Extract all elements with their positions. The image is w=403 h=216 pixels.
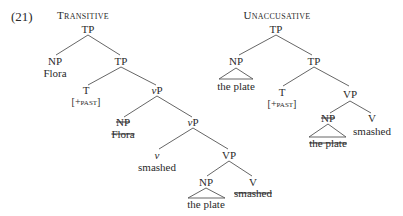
node-tp-bar: TP xyxy=(115,56,128,67)
word-the-plate: the plate xyxy=(187,199,225,210)
node-np-copy: NP xyxy=(116,117,130,128)
word-the-plate-u: the plate xyxy=(217,81,255,92)
example-number: (21) xyxy=(11,9,33,25)
node-vp: VP xyxy=(222,150,236,161)
word-smashed-u: smashed xyxy=(353,126,391,137)
tree-title-transitive: Transitive xyxy=(57,9,109,21)
feature-past: [+past] xyxy=(72,97,101,107)
node-vp-u: VP xyxy=(343,89,357,100)
node-np-object: NP xyxy=(199,177,213,188)
word-flora: Flora xyxy=(43,68,66,79)
word-flora-copy: Flora xyxy=(111,129,134,140)
node-v-u: V xyxy=(368,113,376,124)
node-little-vp-bar: vP xyxy=(187,117,198,128)
node-tp-root: TP xyxy=(82,24,95,35)
word-smashed-copy: smashed xyxy=(234,188,272,199)
tree-title-unaccusative: Unaccusative xyxy=(243,9,310,21)
node-tp-bar-u: TP xyxy=(308,56,321,67)
node-little-v: v xyxy=(155,150,160,161)
node-t-u: T xyxy=(279,87,286,98)
node-little-vp: vP xyxy=(151,85,162,96)
word-smashed: smashed xyxy=(138,162,176,173)
node-t: T xyxy=(83,85,90,96)
word-the-plate-copy-u: the plate xyxy=(309,138,347,149)
node-tp-root-u: TP xyxy=(270,24,283,35)
node-np-subject: NP xyxy=(48,56,62,67)
node-np-copy-u: NP xyxy=(321,113,335,124)
node-np-subject-u: NP xyxy=(229,56,243,67)
feature-past-u: [+past] xyxy=(268,99,297,109)
